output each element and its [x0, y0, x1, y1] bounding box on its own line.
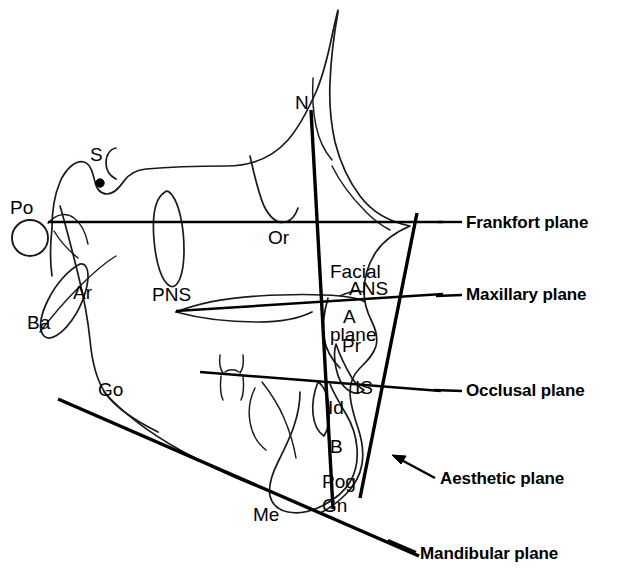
- mandibular-alveolar-ridge-2: [249, 388, 266, 450]
- plane-label-maxillary: Maxillary plane: [466, 286, 586, 305]
- cephalometric-diagram: Po S N Or Ba Ar PNS ANS A Pr Go IS Id B …: [0, 0, 625, 581]
- maxilla-palate-lower-outline: [176, 312, 312, 322]
- landmark-label-id: Id: [328, 398, 344, 419]
- landmark-label-pns: PNS: [152, 285, 191, 306]
- landmark-label-ba: Ba: [27, 313, 50, 334]
- articulare-notch: [54, 231, 78, 258]
- maxillary-plane-line: [176, 294, 443, 311]
- orbital-rim-outline: [250, 156, 298, 222]
- posterior-cranial-base-outline: [51, 228, 53, 276]
- facial-plane-label-line2: plane: [330, 324, 381, 345]
- aesthetic-arrow: [392, 455, 435, 478]
- mandibular-alveolar-ridge: [262, 382, 296, 458]
- landmark-label-go: Go: [98, 380, 123, 401]
- plane-label-occlusal: Occlusal plane: [466, 382, 585, 401]
- landmark-label-po: Po: [10, 198, 33, 219]
- landmark-label-me: Me: [253, 505, 279, 526]
- lower-molar-outline: [220, 376, 223, 400]
- landmark-label-n: N: [295, 93, 309, 114]
- facial-plane-label-line1: Facial: [330, 261, 381, 282]
- landmark-label-ar: Ar: [73, 283, 92, 304]
- plane-label-frankfort: Frankfort plane: [466, 214, 588, 233]
- landmark-label-or: Or: [268, 228, 289, 249]
- landmark-label-pog: Pog: [322, 472, 356, 493]
- occlusal-plane-line: [200, 372, 441, 391]
- pterygomaxillary-fissure-outline: [153, 191, 184, 286]
- anterior-cranial-base-outline: [52, 10, 338, 228]
- upper-molar-outline: [220, 355, 223, 373]
- mandibular-body-lower-border: [104, 392, 272, 492]
- plane-label-aesthetic: Aesthetic plane: [440, 470, 564, 489]
- facial-plane-label: Facial plane: [330, 218, 381, 388]
- sella-turcica-outline: [106, 148, 116, 179]
- porion-circle: [12, 220, 48, 256]
- landmark-label-s: S: [90, 145, 103, 166]
- maxillary-leader-line: [436, 295, 462, 296]
- condyle-outline: [48, 215, 88, 244]
- occlusal-leader-line: [434, 390, 462, 391]
- landmark-label-b: B: [330, 437, 343, 458]
- lower-molar-outline-2: [241, 376, 244, 400]
- plane-label-mandibular: Mandibular plane: [420, 545, 558, 564]
- upper-molar-outline-2: [240, 355, 243, 373]
- landmark-label-gn: Gn: [322, 496, 347, 517]
- molar-crown-outline: [225, 370, 239, 372]
- sella-point-dot: [96, 179, 104, 187]
